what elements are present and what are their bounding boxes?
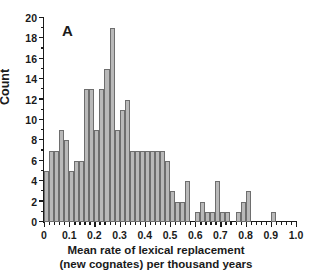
y-tick-major — [39, 58, 44, 59]
y-tick-major — [39, 200, 44, 201]
histogram-bar — [225, 212, 230, 222]
x-tick-major — [94, 222, 95, 227]
y-tick-label: 0 — [31, 216, 37, 228]
x-tick-major — [271, 222, 272, 227]
y-tick-major — [39, 37, 44, 38]
x-tick-major — [145, 222, 146, 227]
x-tick-minor — [59, 222, 60, 225]
x-tick-minor — [150, 222, 151, 225]
x-tick-minor — [130, 222, 131, 225]
x-tick-label: 0.7 — [213, 229, 228, 241]
y-tick-label: 20 — [25, 12, 37, 24]
x-tick-minor — [266, 222, 267, 225]
x-tick-minor — [99, 222, 100, 225]
x-axis-title-line1: Mean rate of lexical replacement — [0, 243, 312, 257]
y-tick-minor — [41, 47, 44, 48]
x-tick-minor — [125, 222, 126, 225]
x-tick-minor — [286, 222, 287, 225]
x-tick-minor — [190, 222, 191, 225]
x-tick-major — [246, 222, 247, 227]
x-tick-minor — [74, 222, 75, 225]
y-tick-label: 8 — [31, 134, 37, 146]
x-tick-label: 0.1 — [62, 229, 77, 241]
x-tick-minor — [210, 222, 211, 225]
x-tick-minor — [104, 222, 105, 225]
y-tick-major — [39, 139, 44, 140]
histogram-bar — [271, 212, 276, 222]
x-tick-minor — [165, 222, 166, 225]
y-tick-major — [39, 180, 44, 181]
x-tick-minor — [236, 222, 237, 225]
x-tick-minor — [49, 222, 50, 225]
x-tick-major — [120, 222, 121, 227]
x-tick-minor — [64, 222, 65, 225]
y-axis-title: Count — [0, 69, 12, 105]
plot-area: 02468101214161820 00.10.20.30.40.50.60.7… — [44, 18, 296, 222]
y-tick-minor — [41, 88, 44, 89]
x-tick-minor — [225, 222, 226, 225]
x-tick-major — [44, 222, 45, 227]
x-tick-minor — [79, 222, 80, 225]
y-tick-label: 4 — [31, 175, 37, 187]
x-tick-minor — [281, 222, 282, 225]
x-tick-major — [69, 222, 70, 227]
x-tick-minor — [261, 222, 262, 225]
x-tick-label: 0.3 — [112, 229, 127, 241]
x-tick-minor — [251, 222, 252, 225]
x-tick-major — [170, 222, 171, 227]
x-tick-major — [296, 222, 297, 227]
x-tick-label: 0.8 — [238, 229, 253, 241]
y-tick-label: 16 — [25, 53, 37, 65]
y-tick-minor — [41, 190, 44, 191]
x-tick-label: 0.5 — [163, 229, 178, 241]
y-tick-label: 14 — [25, 73, 37, 85]
x-tick-label: 0.2 — [87, 229, 102, 241]
x-tick-minor — [155, 222, 156, 225]
histogram-bar — [246, 191, 251, 222]
x-tick-major — [220, 222, 221, 227]
x-tick-minor — [175, 222, 176, 225]
y-tick-label: 18 — [25, 32, 37, 44]
x-tick-major — [195, 222, 196, 227]
x-tick-minor — [54, 222, 55, 225]
x-tick-label: 0 — [41, 229, 47, 241]
histogram-figure: Count A 02468101214161820 00.10.20.30.40… — [0, 0, 312, 275]
x-tick-minor — [115, 222, 116, 225]
x-tick-minor — [256, 222, 257, 225]
y-tick-minor — [41, 149, 44, 150]
y-tick-major — [39, 17, 44, 18]
x-tick-minor — [140, 222, 141, 225]
y-tick-label: 2 — [31, 196, 37, 208]
y-tick-major — [39, 160, 44, 161]
x-tick-label: 0.9 — [263, 229, 278, 241]
x-tick-minor — [160, 222, 161, 225]
x-axis-title: Mean rate of lexical replacement (new co… — [0, 243, 312, 272]
x-tick-minor — [276, 222, 277, 225]
y-tick-label: 6 — [31, 155, 37, 167]
x-tick-minor — [200, 222, 201, 225]
y-tick-minor — [41, 27, 44, 28]
x-axis-title-line2: (new cognates) per thousand years — [0, 257, 312, 271]
histogram-bar — [185, 181, 190, 222]
y-tick-major — [39, 78, 44, 79]
x-tick-minor — [180, 222, 181, 225]
y-tick-major — [39, 98, 44, 99]
y-tick-minor — [41, 109, 44, 110]
y-tick-minor — [41, 129, 44, 130]
y-tick-label: 10 — [25, 114, 37, 126]
x-tick-label: 1.0 — [289, 229, 304, 241]
y-tick-minor — [41, 211, 44, 212]
x-tick-minor — [205, 222, 206, 225]
x-tick-label: 0.4 — [137, 229, 152, 241]
x-tick-minor — [291, 222, 292, 225]
x-tick-label: 0.6 — [188, 229, 203, 241]
x-tick-minor — [241, 222, 242, 225]
y-tick-major — [39, 119, 44, 120]
x-tick-minor — [89, 222, 90, 225]
x-tick-minor — [230, 222, 231, 225]
x-tick-minor — [84, 222, 85, 225]
x-tick-minor — [135, 222, 136, 225]
x-tick-minor — [110, 222, 111, 225]
y-tick-minor — [41, 170, 44, 171]
y-tick-minor — [41, 68, 44, 69]
